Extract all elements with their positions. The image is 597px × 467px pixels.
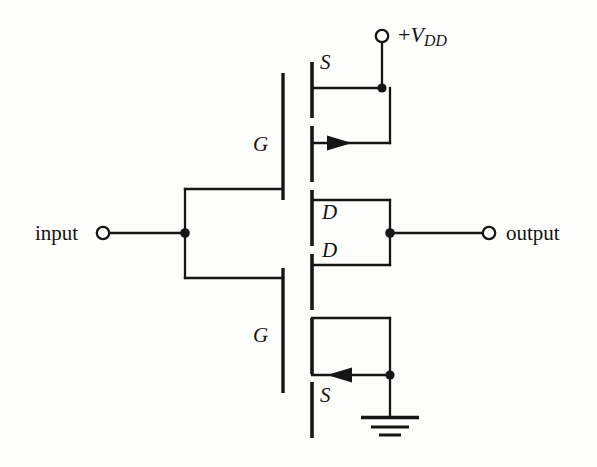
output-terminal-circle[interactable] <box>483 227 495 239</box>
supply-rail-group <box>376 30 388 93</box>
circuit-figure: +VDD input output S G D D G S <box>0 0 597 467</box>
input-net <box>97 189 283 278</box>
output-net <box>385 227 495 239</box>
output-label: output <box>506 223 560 244</box>
pmos-source-label: S <box>320 52 331 73</box>
input-label: input <box>35 223 78 244</box>
vdd-subscript: DD <box>424 32 447 49</box>
pmos-body-arrowhead <box>327 136 352 151</box>
pmos-gate-label: G <box>253 134 268 155</box>
vdd-v-symbol: V <box>410 22 423 47</box>
vdd-plus-sign: + <box>398 22 410 47</box>
input-terminal-circle[interactable] <box>97 227 109 239</box>
nmos-gate-label: G <box>253 325 268 346</box>
nmos-source-label: S <box>320 385 331 406</box>
vdd-terminal-circle[interactable] <box>376 30 388 42</box>
nmos-transistor <box>283 233 395 438</box>
pmos-drain-label: D <box>322 202 337 223</box>
nmos-drain-label: D <box>322 240 337 261</box>
nmos-source-arrowhead <box>327 368 352 383</box>
input-junction-dot <box>180 228 190 238</box>
ground-symbol <box>361 375 419 435</box>
output-junction-dot <box>385 228 395 238</box>
vdd-label: +VDD <box>398 24 447 49</box>
